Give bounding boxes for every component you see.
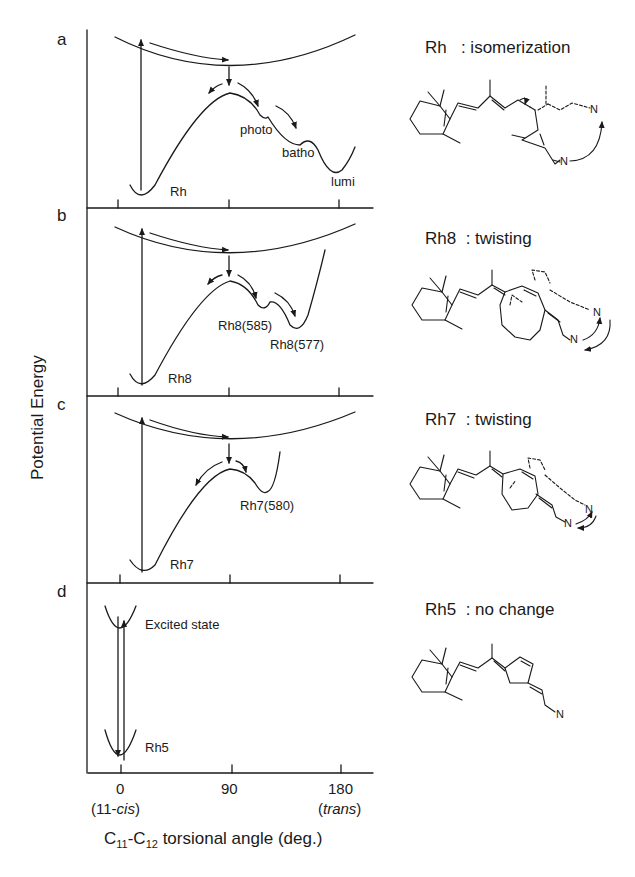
excited-state-curve bbox=[115, 35, 355, 66]
label-rh8-577: Rh8(577) bbox=[270, 337, 324, 352]
panel-letter-d: d bbox=[57, 582, 66, 602]
svg-text:N: N bbox=[593, 306, 601, 318]
label-batho: batho bbox=[282, 145, 315, 160]
ground-state-well bbox=[105, 730, 136, 755]
x-tick-note-trans: (trans) bbox=[318, 800, 361, 817]
label-rh: Rh bbox=[170, 184, 187, 199]
molecule-rh8: N N bbox=[412, 270, 610, 350]
excited-relax-arrow bbox=[150, 233, 228, 250]
panel-letter-b: b bbox=[57, 206, 66, 226]
label-rh7: Rh7 bbox=[170, 557, 194, 572]
svg-text:N: N bbox=[556, 708, 564, 720]
svg-text:N: N bbox=[560, 155, 568, 167]
back-arrow bbox=[208, 275, 222, 284]
forward-arrow-1 bbox=[238, 275, 256, 298]
back-arrow bbox=[209, 84, 222, 93]
x-tick-0: 0 bbox=[116, 780, 124, 797]
panel-a-x-axis bbox=[87, 200, 373, 208]
label-lumi: lumi bbox=[331, 174, 355, 189]
panel-c-curves bbox=[115, 412, 355, 572]
panel-d-x-axis bbox=[88, 765, 373, 773]
title-rh8: Rh8 : twisting bbox=[425, 229, 532, 249]
title-rh7: Rh7 : twisting bbox=[425, 410, 532, 430]
label-rh5: Rh5 bbox=[145, 740, 169, 755]
forward-arrow-2 bbox=[276, 106, 296, 128]
label-excited-state: Excited state bbox=[145, 617, 219, 632]
excited-state-curve bbox=[115, 412, 355, 439]
x-tick-90: 90 bbox=[221, 780, 238, 797]
panel-d-curves bbox=[105, 606, 136, 760]
panel-letter-a: a bbox=[57, 30, 66, 50]
x-axis-label: C11-C12 torsional angle (deg.) bbox=[104, 829, 322, 850]
panel-c-x-axis bbox=[87, 575, 373, 583]
molecule-rh5: N bbox=[412, 644, 564, 720]
molecule-rh7: N N bbox=[410, 451, 596, 529]
panel-a-curves bbox=[115, 35, 355, 195]
figure-canvas: N N N N bbox=[0, 0, 635, 877]
y-axis-label: Potential Energy bbox=[28, 355, 48, 480]
label-rh8-585: Rh8(585) bbox=[218, 318, 272, 333]
label-rh8: Rh8 bbox=[168, 371, 192, 386]
forward-arrow-1 bbox=[238, 83, 258, 106]
svg-text:N: N bbox=[564, 517, 572, 529]
label-rh7-580: Rh7(580) bbox=[240, 498, 294, 513]
label-photo: photo bbox=[240, 122, 273, 137]
panel-b-x-axis bbox=[87, 388, 373, 396]
title-rh5: Rh5 : no change bbox=[425, 600, 555, 620]
x-tick-note-cis: (11-cis) bbox=[91, 800, 140, 817]
excited-relax-arrow bbox=[150, 420, 228, 437]
svg-text:N: N bbox=[570, 333, 578, 345]
molecule-rh: N N bbox=[410, 80, 602, 167]
svg-text:N: N bbox=[590, 103, 598, 115]
panel-b-curves bbox=[115, 224, 355, 385]
excited-relax-arrow bbox=[150, 43, 228, 60]
ground-state-curve bbox=[130, 93, 355, 195]
panel-letter-c: c bbox=[57, 395, 66, 415]
title-rh: Rh : isomerization bbox=[425, 38, 571, 58]
excited-state-curve bbox=[115, 224, 355, 253]
excited-state-well bbox=[105, 606, 136, 628]
ground-state-curve bbox=[130, 250, 325, 384]
x-tick-180: 180 bbox=[328, 780, 353, 797]
